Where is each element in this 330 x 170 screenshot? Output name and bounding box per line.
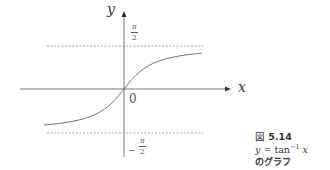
equation-function: tan [274,144,290,155]
y-axis-arrow-icon [122,11,127,17]
y-axis-label: y [107,1,115,17]
figure-caption: 図 5.14 y = tan−1 x のグラフ [255,129,308,168]
origin-label: 0 [129,92,137,106]
figure-number: 図 5.14 [255,129,308,143]
x-axis-arrow-icon [225,87,231,92]
equation-equals: = [260,144,274,155]
figure-subtitle: のグラフ [255,155,308,168]
lower-asymptote-label: π 2 [139,138,146,156]
upper-asymptote-label: π 2 [131,24,138,42]
lower-asymptote-denominator: 2 [140,147,145,156]
figure-number-value: 5.14 [268,131,291,142]
lower-asymptote-sign: − [128,145,136,155]
upper-asymptote-denominator: 2 [132,33,137,42]
equation-argument: x [303,144,308,155]
lower-asymptote-numerator: π [139,138,146,147]
upper-asymptote-numerator: π [131,24,138,33]
figure-equation: y = tan−1 x [255,143,308,155]
figure-prefix: 図 [255,131,265,142]
equation-exponent: −1 [290,143,300,151]
x-axis-label: x [238,79,246,95]
